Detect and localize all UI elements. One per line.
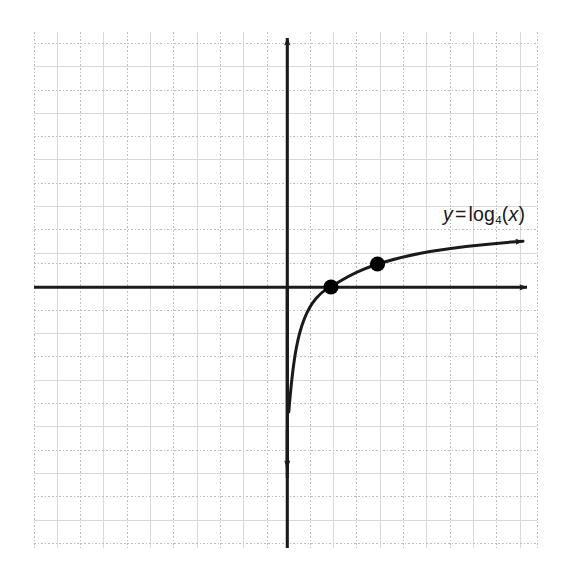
function-equation-label: y=log4(x) (443, 205, 525, 227)
equation-x-variable: x (508, 203, 518, 225)
grid-horizontal-lines (34, 43, 537, 543)
equation-log-base: 4 (495, 214, 502, 226)
logarithm-graph-figure: y=log4(x) (0, 0, 563, 570)
equation-close-paren: ) (518, 203, 525, 225)
equation-y-variable: y (443, 203, 453, 225)
point-4-1 (370, 256, 385, 271)
grid-lines (34, 32, 537, 548)
log-curve (289, 241, 523, 412)
point-1-0 (323, 279, 338, 294)
equation-equals-sign: = (453, 203, 469, 225)
equation-log-function: log (469, 203, 496, 225)
plotted-points (323, 256, 385, 294)
plot-canvas (0, 0, 563, 570)
log-curve-group (289, 241, 523, 412)
coordinate-axes (34, 38, 527, 548)
grid-vertical-lines (34, 32, 537, 548)
